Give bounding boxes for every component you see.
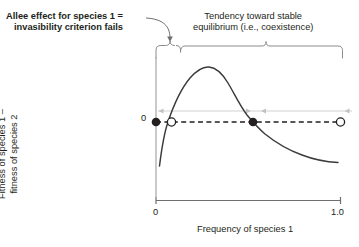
equilibrium-marker-coexistence-stable (249, 118, 258, 127)
flow-arrow-right-to-coexistence (246, 109, 251, 114)
equilibrium-marker-allee-threshold-unstable (167, 118, 175, 126)
equilibrium-marker-x0-stable (152, 118, 161, 127)
figure-container: Allee effect for species 1 = invasibilit… (0, 0, 359, 247)
tendency-annotation-line-1: Tendency toward stable (193, 11, 313, 22)
flow-arrow-left-from-one (345, 109, 350, 114)
y-axis-tick-label-0: 0 (141, 113, 146, 123)
allee-annotation-line-1: Allee effect for species 1 = (6, 11, 123, 22)
x-axis-tick-label-1: 1.0 (331, 207, 344, 217)
brace-coexistence-region (176, 42, 343, 59)
x-axis-title: Frequency of species 1 (197, 224, 293, 234)
x-axis-line (156, 197, 341, 204)
figure-graphics (0, 0, 359, 247)
tendency-annotation-line-2: equilibrium (i.e., coexistence) (193, 22, 313, 33)
flow-arrow-left-to-zero (159, 109, 164, 114)
allee-leader-line (146, 18, 170, 38)
brace-allee-region (156, 41, 175, 58)
fitness-difference-curve (160, 67, 339, 166)
y-axis-title-line-2: fitness of species 2 (9, 84, 21, 224)
y-axis-title: Fitness of species 1 – fitness of specie… (0, 84, 20, 224)
allee-annotation-line-2: invasibility criterion fails (6, 22, 123, 33)
y-axis-title-line-1: Fitness of species 1 – (0, 84, 9, 224)
allee-effect-annotation: Allee effect for species 1 = invasibilit… (6, 11, 123, 34)
x-axis-tick-label-0: 0 (153, 207, 158, 217)
coexistence-tendency-annotation: Tendency toward stable equilibrium (i.e.… (193, 11, 313, 34)
equilibrium-marker-x1-unstable (336, 118, 344, 126)
flow-arrow-left-to-coexistence (261, 109, 266, 114)
